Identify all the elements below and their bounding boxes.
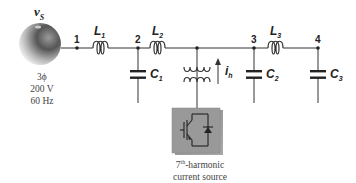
caption-line-1: 7th-harmonic: [150, 156, 250, 171]
capacitor-c2-label: C2: [266, 68, 279, 82]
source-frequency: 60 Hz: [22, 95, 62, 107]
source-voltage-label: vS: [34, 5, 44, 22]
igbt-inverter-icon: [172, 108, 223, 155]
harmonic-source-caption: 7th-harmonic current source: [150, 156, 250, 183]
source-specs: 3ϕ 200 V 60 Hz: [22, 71, 62, 107]
capacitor-c1-label: C1: [150, 68, 163, 82]
source-voltage: 200 V: [22, 83, 62, 95]
inductor-l2-label: L2: [152, 25, 163, 39]
current-arrow-icon: [215, 58, 221, 65]
ac-source-sphere-icon: [19, 23, 61, 65]
source-phase: 3ϕ: [22, 71, 62, 83]
node-4-label: 4: [315, 35, 321, 45]
caption-line-2: current source: [150, 171, 250, 183]
inductor-l1-label: L1: [94, 25, 105, 39]
node-1-label: 1: [74, 35, 80, 45]
harmonic-current-label: ih: [225, 65, 233, 79]
circuit-diagram: vS 3ϕ 200 V 60 Hz 1 2 3 4 L1 L2 L3 C1 C2…: [0, 0, 356, 183]
capacitor-c3-label: C3: [330, 68, 343, 82]
node-2-label: 2: [135, 35, 141, 45]
inductor-l3-label: L3: [270, 25, 281, 39]
node-3-label: 3: [251, 35, 257, 45]
